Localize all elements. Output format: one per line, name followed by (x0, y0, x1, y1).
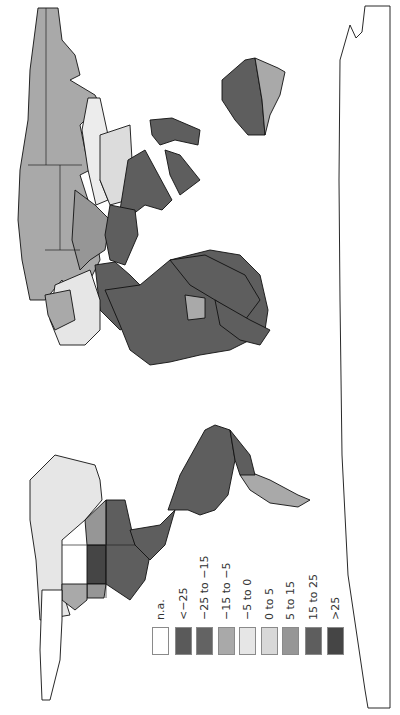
region-usa-north (87, 545, 106, 584)
region-china-south (120, 150, 172, 215)
region-southeast-asia (150, 118, 200, 145)
region-argentina (240, 472, 310, 507)
region-usa-west (87, 584, 106, 598)
region-greenland (40, 590, 62, 700)
region-sudan (185, 295, 205, 320)
region-india (105, 205, 138, 265)
antarctica (339, 6, 390, 708)
region-japan (165, 150, 200, 195)
region-south-america-north (168, 425, 235, 515)
world-map (0, 0, 400, 715)
